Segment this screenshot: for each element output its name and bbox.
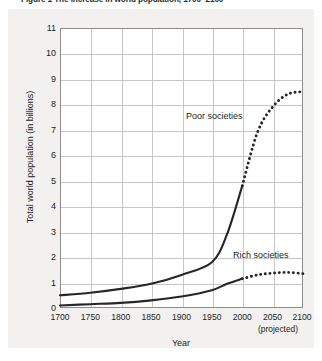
gridline-v-2050: [274, 29, 275, 307]
series-label-rich-societies: Rich societies: [233, 250, 289, 260]
y-tick-9: 9: [34, 74, 56, 84]
y-tick-4: 4: [34, 201, 56, 211]
x-tick-1800: 1800: [111, 312, 130, 322]
x-tick-1850: 1850: [142, 312, 161, 322]
gridline-h-1: [61, 284, 302, 285]
y-tick-5: 5: [34, 176, 56, 186]
y-tick-6: 6: [34, 150, 56, 160]
y-axis-title: Total world population (in billions): [25, 42, 35, 272]
gridline-h-3: [61, 233, 302, 234]
gridline-v-1750: [91, 29, 92, 307]
plot-area: [60, 28, 303, 308]
gridline-h-9: [61, 80, 302, 81]
gridline-v-2000: [243, 29, 244, 307]
gridline-h-8: [61, 105, 302, 106]
y-tick-2: 2: [34, 252, 56, 262]
gridline-v-1900: [183, 29, 184, 307]
y-tick-8: 8: [34, 99, 56, 109]
x-tick-1700: 1700: [50, 312, 69, 322]
gridline-h-10: [61, 54, 302, 55]
y-tick-1: 1: [34, 278, 56, 288]
x-tick-1900: 1900: [172, 312, 191, 322]
gridline-h-7: [61, 131, 302, 132]
x-tick-2100: 2100: [292, 312, 311, 322]
y-tick-7: 7: [34, 125, 56, 135]
x-tick-1750: 1750: [81, 312, 100, 322]
x-axis-title: Year: [172, 338, 190, 348]
gridline-h-6: [61, 156, 302, 157]
gridline-v-1800: [122, 29, 123, 307]
y-tick-3: 3: [34, 227, 56, 237]
y-tick-11: 11: [34, 23, 56, 33]
gridline-h-4: [61, 207, 302, 208]
gridline-h-5: [61, 182, 302, 183]
x-tick-2050: 2050: [263, 312, 282, 322]
x-tick-1950: 1950: [202, 312, 221, 322]
gridline-v-1950: [213, 29, 214, 307]
y-tick-10: 10: [34, 48, 56, 58]
gridline-v-1850: [152, 29, 153, 307]
figure-title: Figure 1 The increase in world populatio…: [0, 0, 322, 7]
x-tick-2000: 2000: [233, 312, 252, 322]
projected-note: (projected): [258, 324, 298, 334]
series-label-poor-societies: Poor societies: [186, 111, 243, 121]
figure-container: Figure 1 The increase in world populatio…: [0, 0, 322, 361]
y-axis-ticks: 11 10 9 8 7 6 5 4 3 2 1 0: [33, 28, 56, 308]
